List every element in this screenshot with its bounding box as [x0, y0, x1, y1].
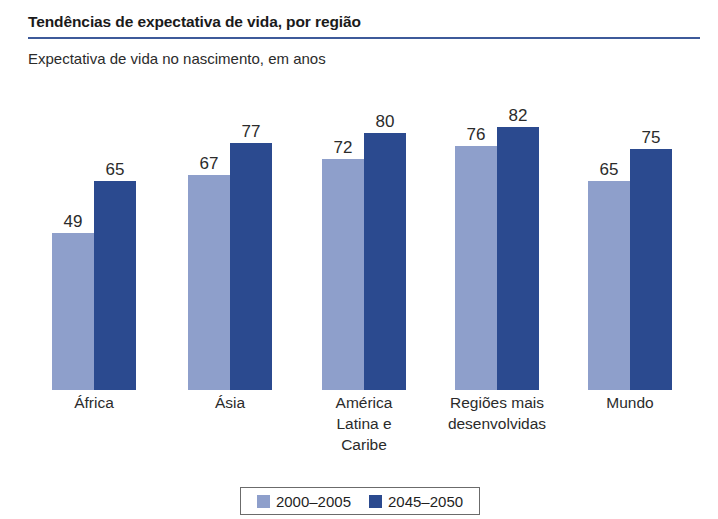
legend-label: 2000–2005 — [276, 493, 351, 510]
bar-rect[interactable] — [188, 175, 230, 390]
bar-item[interactable]: 75 — [630, 149, 672, 390]
category-label-line: Latina e — [289, 413, 439, 434]
bar-group-bars: 7280 — [322, 90, 406, 390]
bar-item[interactable]: 82 — [497, 127, 539, 390]
bar-group: 4965 — [52, 90, 136, 390]
bar-group-bars: 6777 — [188, 90, 272, 390]
category-label: África — [19, 392, 169, 413]
bar-item[interactable]: 76 — [455, 146, 497, 390]
bar-group: 6575 — [588, 90, 672, 390]
legend-swatch-icon — [369, 495, 382, 508]
category-label: Mundo — [555, 392, 705, 413]
category-label: Regiões maisdesenvolvidas — [422, 392, 572, 434]
title-divider — [28, 37, 700, 39]
category-label-line: América — [289, 392, 439, 413]
category-label-line: África — [19, 392, 169, 413]
bar-item[interactable]: 77 — [230, 143, 272, 390]
chart-title: Tendências de expectativa de vida, por r… — [28, 12, 700, 32]
bar-rect[interactable] — [497, 127, 539, 390]
bar-group-bars: 4965 — [52, 90, 136, 390]
bar-rect[interactable] — [364, 133, 406, 390]
bar-value-label: 75 — [621, 128, 681, 147]
bar-rect[interactable] — [52, 233, 94, 390]
bar-item[interactable]: 49 — [52, 233, 94, 390]
chart-legend: 2000–20052045–2050 — [240, 487, 480, 515]
bar-group: 7280 — [322, 90, 406, 390]
bar-rect[interactable] — [230, 143, 272, 390]
bar-rect[interactable] — [94, 181, 136, 390]
bar-value-label: 80 — [355, 112, 415, 131]
bar-rect[interactable] — [322, 159, 364, 390]
legend-label: 2045–2050 — [388, 493, 463, 510]
chart-header: Tendências de expectativa de vida, por r… — [28, 12, 700, 68]
bar-group: 7682 — [455, 90, 539, 390]
category-label: AméricaLatina eCaribe — [289, 392, 439, 455]
category-label-line: Mundo — [555, 392, 705, 413]
bar-value-label: 82 — [488, 106, 548, 125]
bar-item[interactable]: 67 — [188, 175, 230, 390]
legend-swatch-icon — [257, 495, 270, 508]
chart-subtitle: Expectativa de vida no nascimento, em an… — [28, 49, 700, 68]
bar-rect[interactable] — [455, 146, 497, 390]
category-label-line: Caribe — [289, 434, 439, 455]
bar-chart-plot-area: 49656777728076826575 — [0, 90, 718, 390]
bar-group-bars: 7682 — [455, 90, 539, 390]
category-label: Ásia — [155, 392, 305, 413]
bar-item[interactable]: 80 — [364, 133, 406, 390]
bar-value-label: 65 — [85, 160, 145, 179]
legend-item[interactable]: 2000–2005 — [257, 493, 351, 510]
category-label-line: Regiões mais — [422, 392, 572, 413]
bar-group-bars: 6575 — [588, 90, 672, 390]
bar-item[interactable]: 72 — [322, 159, 364, 390]
bar-group: 6777 — [188, 90, 272, 390]
category-label-line: Ásia — [155, 392, 305, 413]
bar-rect[interactable] — [630, 149, 672, 390]
legend-item[interactable]: 2045–2050 — [369, 493, 463, 510]
category-label-line: desenvolvidas — [422, 413, 572, 434]
bar-rect[interactable] — [588, 181, 630, 390]
x-axis-category-labels: ÁfricaÁsiaAméricaLatina eCaribeRegiões m… — [0, 392, 718, 472]
bar-item[interactable]: 65 — [588, 181, 630, 390]
bar-value-label: 77 — [221, 122, 281, 141]
bar-item[interactable]: 65 — [94, 181, 136, 390]
